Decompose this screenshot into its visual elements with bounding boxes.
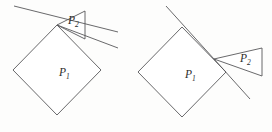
right-label-p1-letter: P [184, 68, 192, 80]
figure-root: P1 P2 P1 P2 [0, 0, 272, 132]
right-polygon-p1 [138, 27, 226, 117]
left-label-p1-subscript: 1 [66, 72, 70, 81]
left-label-p2-letter: P [67, 14, 75, 26]
right-figure: P1 P2 [138, 6, 262, 117]
right-label-p2-subscript: 2 [247, 58, 251, 67]
right-label-p2-letter: P [239, 52, 247, 64]
left-label-p1-letter: P [58, 66, 66, 78]
right-label-p1-subscript: 1 [192, 74, 196, 83]
left-label-p2-subscript: 2 [75, 20, 79, 29]
left-figure: P1 P2 [13, 6, 118, 115]
geometry-diagram: P1 P2 P1 P2 [0, 0, 272, 132]
left-polygon-p1 [13, 25, 101, 115]
